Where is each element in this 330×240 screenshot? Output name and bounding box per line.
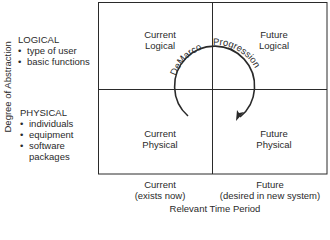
physical-item: •software (20, 140, 73, 151)
quadrant-current-logical: CurrentLogical (130, 29, 190, 51)
quadrant-current-physical: CurrentPhysical (130, 128, 190, 150)
logical-item: •type of user (18, 45, 90, 56)
quadrant-future-logical: FutureLogical (244, 29, 304, 51)
physical-item: •individuals (20, 118, 73, 129)
y-axis-label: Degree of Abstraction (2, 43, 13, 133)
logical-heading: LOGICAL (18, 34, 90, 45)
physical-heading: PHYSICAL (20, 107, 73, 118)
logical-item: •basic functions (18, 56, 90, 67)
physical-group: PHYSICAL •individuals •equipment •softwa… (20, 107, 73, 162)
physical-item: •equipment (20, 129, 73, 140)
column-current-label: Current(exists now) (120, 179, 200, 201)
column-future-label: Future(desired in new system) (210, 179, 330, 201)
physical-item-continuation: packages (20, 151, 73, 162)
logical-group: LOGICAL •type of user •basic functions (18, 34, 90, 67)
x-axis-label: Relevant Time Period (150, 203, 280, 212)
quadrant-future-physical: FuturePhysical (244, 128, 304, 150)
